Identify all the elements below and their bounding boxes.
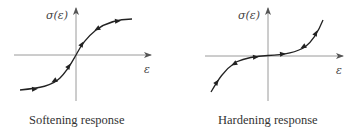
x-axis-label: ε	[336, 64, 342, 77]
softening-caption: Softening response	[29, 113, 125, 127]
hardening-caption: Hardening response	[218, 113, 318, 127]
direction-arrows	[213, 29, 319, 86]
softening-panel: σ(ε) ε Softening response	[14, 8, 151, 127]
y-axis-label: σ(ε)	[46, 9, 68, 22]
hardening-panel: σ(ε) ε Hardening response	[205, 8, 343, 127]
y-axis-label: σ(ε)	[238, 9, 260, 22]
x-axis-label: ε	[144, 63, 150, 76]
diagram-canvas: σ(ε) ε Softening response σ(ε) ε H	[0, 0, 355, 133]
